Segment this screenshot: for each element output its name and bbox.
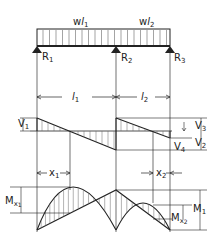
span-label-1: l1 [72, 91, 79, 104]
load-label-2: wl2 [139, 16, 154, 29]
span-dimensions [37, 95, 170, 99]
labels: wl1 wl2 R1 R2 R3 l1 l2 V1 V2 V3 V4 x1 x2… [5, 16, 206, 225]
support-1-icon [32, 46, 42, 53]
load-label-1: wl1 [73, 16, 88, 29]
support-2-icon [111, 46, 121, 53]
shear-label-v4: V4 [174, 141, 186, 154]
reaction-label-1: R1 [42, 51, 53, 64]
distance-label-x2: x2 [156, 167, 166, 180]
shear-label-v2: V2 [195, 137, 206, 150]
reaction-label-2: R2 [121, 52, 132, 65]
shear-label-v3: V3 [195, 120, 206, 133]
shear-label-v1: V1 [18, 118, 29, 131]
moment-label-m1: M1 [193, 203, 206, 216]
reaction-label-3: R3 [174, 52, 185, 65]
moment-label-mx1: Mx1 [5, 195, 22, 208]
distance-label-x1: x1 [49, 167, 59, 180]
distributed-load [37, 29, 170, 46]
moment-diagram [10, 187, 207, 230]
span-label-2: l2 [141, 91, 148, 104]
moment-label-mx2: Mx2 [171, 212, 188, 225]
support-icons [32, 46, 175, 53]
beam-diagram: wl1 wl2 R1 R2 R3 l1 l2 V1 V2 V3 V4 x1 x2… [0, 0, 221, 245]
